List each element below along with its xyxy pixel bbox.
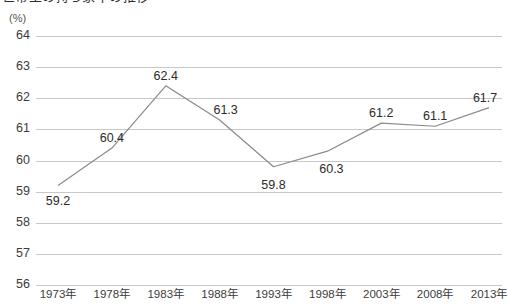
data-point-label: 61.7 [473, 92, 497, 105]
data-point-label: 61.2 [369, 107, 393, 120]
x-axis-tick-label: 1988年 [201, 288, 238, 301]
y-axis-tick-label: 58 [0, 216, 30, 229]
y-axis-tick-label: 63 [0, 60, 30, 73]
y-axis-tick-label: 56 [0, 278, 30, 291]
x-axis-tick-label: 1998年 [309, 288, 346, 301]
y-axis-tick-label: 64 [0, 29, 30, 42]
data-point-label: 62.4 [154, 70, 178, 83]
line-chart: 世帯主の持ち家率の推移 (%) 6463626160595857561973年1… [0, 0, 510, 307]
data-point-label: 61.1 [423, 110, 447, 123]
x-axis-tick-label: 2013年 [471, 288, 508, 301]
y-axis-tick-label: 57 [0, 247, 30, 260]
y-axis-tick-label: 62 [0, 91, 30, 104]
x-axis-tick-label: 1973年 [40, 288, 77, 301]
data-point-label: 59.2 [46, 195, 70, 208]
y-axis-tick-label: 59 [0, 185, 30, 198]
x-axis-tick-label: 1993年 [255, 288, 292, 301]
y-axis-tick-label: 61 [0, 122, 30, 135]
x-axis-tick-label: 1978年 [94, 288, 131, 301]
x-axis-tick-label: 1983年 [147, 288, 184, 301]
x-axis-tick-label: 2008年 [417, 288, 454, 301]
y-axis-tick-label: 60 [0, 154, 30, 167]
series-line-layer [0, 0, 510, 307]
data-point-label: 61.3 [213, 104, 237, 117]
data-point-label: 60.4 [100, 132, 124, 145]
data-point-label: 59.8 [261, 179, 285, 192]
x-axis-tick-label: 2003年 [363, 288, 400, 301]
data-point-label: 60.3 [319, 163, 343, 176]
